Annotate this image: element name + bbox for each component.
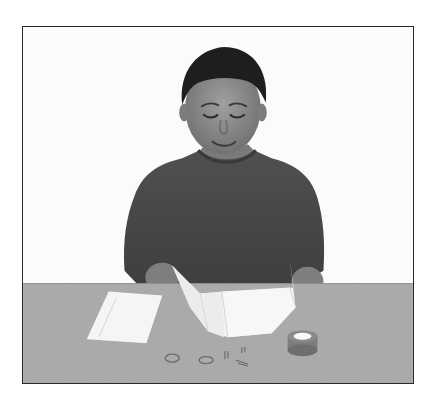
tape-roll: [288, 330, 318, 356]
photo-scene: [23, 27, 413, 383]
photo-frame: Child seated at a table opening a folded…: [22, 26, 414, 384]
